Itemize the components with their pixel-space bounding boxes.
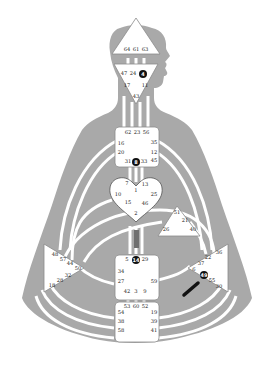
gate-56[interactable]: 56 (143, 129, 150, 135)
gate-30[interactable]: 30 (216, 283, 223, 289)
gate-27[interactable]: 27 (118, 278, 125, 284)
gate-63[interactable]: 63 (142, 46, 149, 52)
gate-31[interactable]: 31 (125, 158, 132, 164)
gate-51[interactable]: 51 (174, 209, 181, 215)
gate-36[interactable]: 36 (216, 249, 223, 255)
gate-15[interactable]: 15 (125, 199, 132, 205)
gate-57[interactable]: 57 (60, 256, 67, 262)
gate-29[interactable]: 29 (142, 256, 149, 262)
gate-23[interactable]: 23 (134, 129, 141, 135)
gate-9[interactable]: 9 (143, 288, 146, 294)
gate-19[interactable]: 19 (151, 309, 158, 315)
gate-33[interactable]: 33 (141, 158, 148, 164)
sacral-center[interactable]: 5 14 29 34 27 59 42 3 9 (115, 255, 159, 300)
gate-16[interactable]: 16 (118, 140, 125, 146)
gate-21[interactable]: 21 (182, 217, 189, 223)
gate-39[interactable]: 39 (151, 318, 158, 324)
gate-41[interactable]: 41 (151, 327, 158, 333)
gate-50[interactable]: 50 (75, 265, 82, 271)
gate-3[interactable]: 3 (134, 288, 137, 294)
gate-20[interactable]: 20 (118, 149, 125, 155)
gate-4[interactable]: 4 (141, 71, 145, 77)
gate-26[interactable]: 26 (163, 226, 170, 232)
gate-10[interactable]: 10 (115, 191, 122, 197)
gate-38[interactable]: 38 (118, 318, 125, 324)
gate-37[interactable]: 37 (198, 260, 205, 266)
gate-43[interactable]: 43 (133, 93, 140, 99)
gate-11[interactable]: 11 (142, 82, 149, 88)
gate-5[interactable]: 5 (125, 256, 128, 262)
gate-12[interactable]: 12 (151, 149, 158, 155)
gate-52[interactable]: 52 (142, 303, 149, 309)
defined-channel-2-14 (134, 230, 139, 248)
gate-53[interactable]: 53 (124, 303, 131, 309)
gate-22[interactable]: 22 (205, 254, 212, 260)
gate-13[interactable]: 13 (142, 181, 149, 187)
gate-40[interactable]: 40 (190, 226, 197, 232)
gate-35[interactable]: 35 (151, 139, 158, 145)
gate-55[interactable]: 55 (209, 277, 216, 283)
gate-2[interactable]: 2 (134, 210, 137, 216)
gate-28[interactable]: 28 (57, 277, 64, 283)
gate-8[interactable]: 8 (134, 159, 138, 165)
gate-32[interactable]: 32 (65, 272, 72, 278)
gate-64[interactable]: 64 (124, 46, 131, 52)
gate-24[interactable]: 24 (130, 70, 137, 76)
gate-60[interactable]: 60 (133, 303, 140, 309)
gate-18[interactable]: 18 (49, 282, 56, 288)
root-center[interactable]: 53 60 52 54 38 58 19 39 41 (115, 302, 159, 342)
gate-54[interactable]: 54 (118, 309, 125, 315)
gate-14[interactable]: 14 (133, 257, 140, 263)
throat-center[interactable]: 62 23 56 16 35 20 12 31 8 33 45 (115, 127, 159, 167)
gate-1[interactable]: 1 (134, 187, 137, 193)
gate-47[interactable]: 47 (121, 70, 128, 76)
gate-6[interactable]: 6 (192, 266, 195, 272)
gate-25[interactable]: 25 (151, 191, 158, 197)
gate-34[interactable]: 34 (118, 268, 125, 274)
bodygraph: 64 61 63 47 24 4 17 11 43 62 23 56 16 35… (0, 0, 273, 375)
gate-49[interactable]: 49 (201, 272, 208, 278)
gate-59[interactable]: 59 (151, 278, 158, 284)
gate-46[interactable]: 46 (142, 200, 149, 206)
gate-62[interactable]: 62 (125, 129, 132, 135)
gate-42[interactable]: 42 (124, 288, 131, 294)
gate-45[interactable]: 45 (151, 157, 158, 163)
gate-17[interactable]: 17 (124, 82, 131, 88)
gate-58[interactable]: 58 (118, 327, 125, 333)
gate-61[interactable]: 61 (133, 46, 140, 52)
gate-48[interactable]: 48 (52, 251, 59, 257)
gate-7[interactable]: 7 (125, 180, 128, 186)
gate-44[interactable]: 44 (67, 260, 74, 266)
